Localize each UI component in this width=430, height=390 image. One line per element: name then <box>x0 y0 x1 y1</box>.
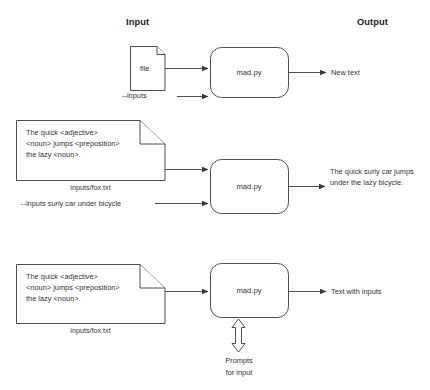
output-label-row3: Text with inputs <box>331 287 382 298</box>
output-label-row2: The quick surly car jumps under the lazy… <box>330 166 426 188</box>
file-icon-label-row1: file <box>140 64 149 75</box>
document-caption-row2: inputs/fox.txt <box>16 183 165 192</box>
inputs-flag-label-row1: --inputs <box>122 91 147 102</box>
document-caption-row3: inputs/fox.txt <box>16 326 165 335</box>
process-label-row3: mad.py <box>210 286 288 295</box>
prompts-for-input-label: Prompts for input <box>208 355 270 378</box>
inputs-flag-label-row2: --inputs surly car under bicycle <box>21 199 121 210</box>
process-label-row2: mad.py <box>210 182 288 191</box>
document-text-row2: The quick <adjective> <noun> jumps <prep… <box>26 127 156 161</box>
process-flow-diagram: Input Output file --inputs mad.py New te… <box>0 0 430 390</box>
output-label-row1: New text <box>331 68 360 79</box>
document-text-row3: The quick <adjective> <noun> jumps <prep… <box>26 271 156 305</box>
process-label-row1: mad.py <box>210 68 288 77</box>
column-header-output: Output <box>357 17 388 27</box>
double-headed-arrow-icon <box>232 319 245 352</box>
column-header-input: Input <box>126 17 149 27</box>
